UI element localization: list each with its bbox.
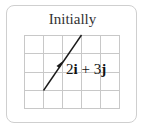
vector-label: 2i + 3j — [66, 61, 106, 77]
plus-operator: + — [78, 61, 94, 77]
unit-vector-j: j — [101, 61, 106, 77]
coef-i: 2 — [66, 61, 74, 77]
